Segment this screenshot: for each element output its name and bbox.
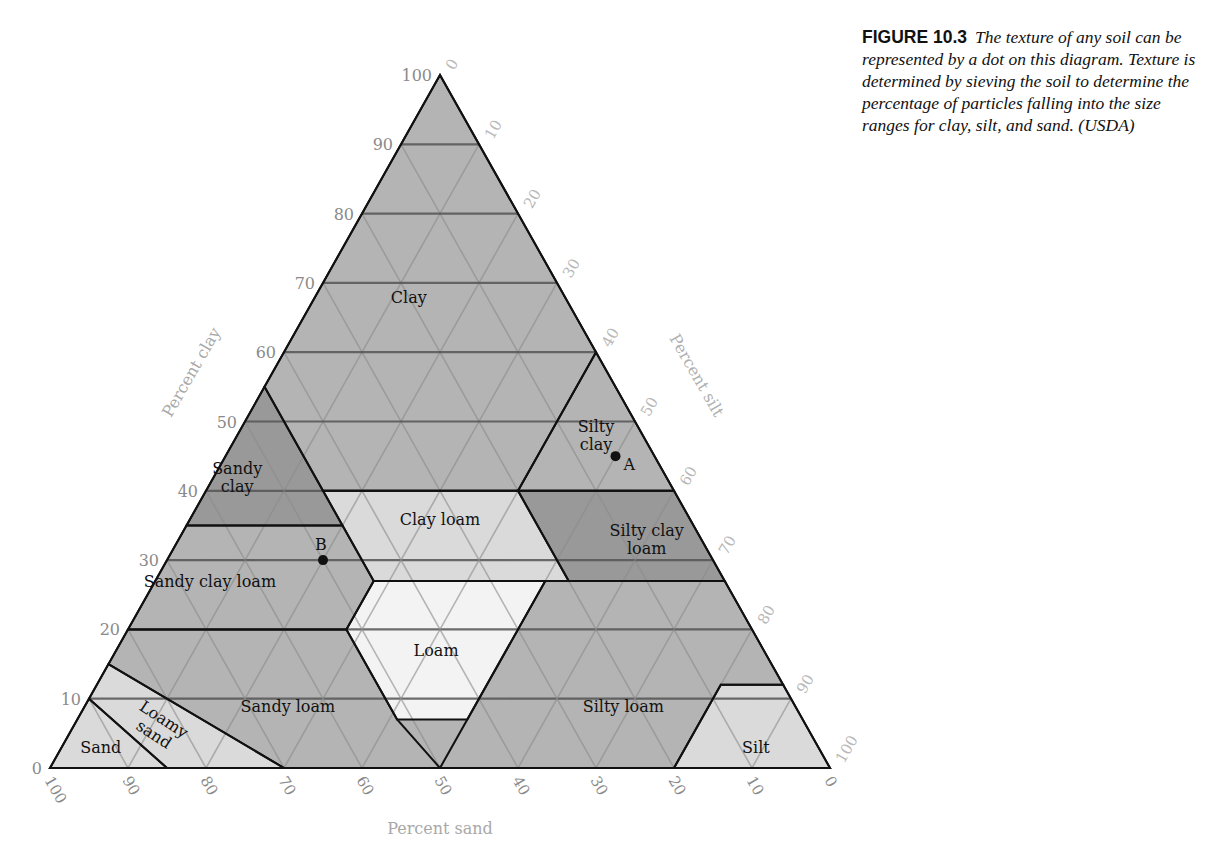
sand-tick: 60 [353, 773, 378, 799]
sand-tick: 40 [509, 773, 534, 799]
clay-tick: 30 [139, 551, 159, 570]
point-a [611, 451, 621, 461]
sand-tick: 30 [587, 773, 612, 799]
soil-texture-triangle: ClaySandyclaySiltyclayClay loamSilty cla… [0, 0, 860, 860]
region-label: Silt [742, 738, 770, 757]
silt-axis-label: Percent silt [665, 331, 728, 421]
sand-tick: 10 [743, 773, 768, 799]
silt-tick: 10 [481, 117, 506, 143]
region-label: Silty loam [583, 697, 664, 716]
point-label: B [315, 535, 327, 554]
clay-tick: 70 [295, 274, 315, 293]
region-label: Clay loam [400, 510, 480, 529]
silt-tick: 0 [442, 56, 462, 73]
silt-tick: 70 [715, 533, 740, 559]
silt-tick: 50 [637, 394, 662, 420]
clay-tick: 0 [32, 759, 42, 778]
point-label: A [623, 455, 636, 474]
region-label: Loam [414, 641, 459, 660]
clay-tick: 60 [256, 343, 276, 362]
silt-tick: 60 [676, 463, 701, 489]
region-label: Sandy loam [241, 697, 336, 716]
sand-tick: 70 [275, 773, 300, 799]
sand-tick: 80 [197, 773, 222, 799]
silt-tick: 40 [598, 325, 623, 351]
clay-tick: 10 [61, 690, 81, 709]
figure-caption: FIGURE 10.3The texture of any soil can b… [862, 26, 1212, 136]
silt-tick: 80 [754, 602, 779, 628]
clay-tick: 100 [401, 66, 432, 85]
silt-tick: 20 [520, 186, 545, 212]
clay-tick: 80 [334, 205, 354, 224]
silt-tick: 30 [559, 255, 584, 281]
sand-tick: 100 [41, 773, 71, 807]
clay-tick: 20 [100, 620, 120, 639]
point-b [318, 555, 328, 565]
clay-axis-label: Percent clay [158, 324, 224, 420]
sand-axis-label: Percent sand [387, 819, 493, 838]
silt-tick: 90 [793, 671, 818, 697]
region-label: Sandy clay loam [144, 572, 276, 591]
region-label: Clay [391, 288, 427, 307]
sand-tick: 90 [119, 773, 144, 799]
clay-tick: 50 [217, 413, 237, 432]
clay-tick: 40 [178, 482, 198, 501]
sand-tick: 0 [821, 773, 841, 790]
silt-tick: 100 [832, 732, 860, 766]
clay-tick: 90 [373, 135, 393, 154]
sand-tick: 20 [665, 773, 690, 799]
figure-label: FIGURE 10.3 [862, 27, 967, 47]
region-label: Siltyclay [578, 417, 615, 454]
sand-tick: 50 [431, 773, 456, 799]
region-label: Sand [80, 738, 121, 757]
